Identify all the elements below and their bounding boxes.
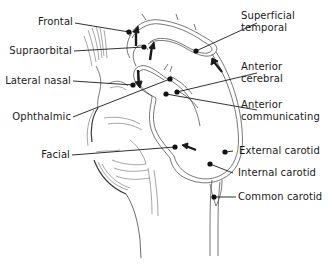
label-supraorbital: Supraorbital [9, 45, 72, 57]
label-anterior-communicating: Anterior communicating [241, 99, 320, 123]
label-anterior-communicating-line2: communicating [241, 111, 320, 123]
artery-outlines [126, 14, 243, 256]
label-anterior-communicating-line1: Anterior [241, 99, 320, 111]
label-facial: Facial [41, 149, 70, 161]
dot-external-carotid [222, 149, 227, 154]
label-ophthalmic: Ophthalmic [12, 111, 71, 123]
label-anterior-cerebral-line1: Anterior [241, 61, 283, 73]
dot-anterior-cerebral [174, 89, 179, 94]
anatomy-diagram: Frontal Supraorbital Lateral nasal Ophth… [0, 0, 329, 269]
label-frontal: Frontal [38, 16, 73, 28]
dot-lateral-nasal [130, 82, 135, 87]
dot-facial [172, 144, 177, 149]
label-superficial-temporal: Superficial temporal [241, 10, 295, 34]
leader-frontal [75, 23, 129, 32]
dot-supraorbital [141, 44, 146, 49]
label-common-carotid: Common carotid [238, 191, 322, 203]
label-superficial-temporal-line1: Superficial [241, 10, 295, 22]
label-external-carotid: External carotid [239, 145, 320, 157]
dot-superficial-temporal [193, 48, 198, 53]
artery-illustration [0, 0, 329, 269]
dot-frontal [126, 29, 131, 34]
dot-internal-carotid [207, 161, 212, 166]
label-superficial-temporal-line2: temporal [241, 22, 295, 34]
label-internal-carotid: Internal carotid [238, 167, 316, 179]
label-lateral-nasal: Lateral nasal [5, 75, 71, 87]
leader-facial [72, 147, 175, 155]
label-anterior-cerebral: Anterior cerebral [241, 61, 283, 85]
dot-ophthalmic [167, 76, 172, 81]
label-anterior-cerebral-line2: cerebral [241, 73, 283, 85]
dot-anterior-communicating [163, 91, 168, 96]
leader-supraorbital [74, 47, 144, 51]
face-profile-sketch [84, 26, 158, 258]
dot-common-carotid [211, 194, 216, 199]
